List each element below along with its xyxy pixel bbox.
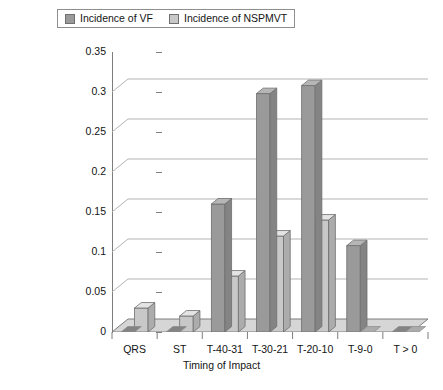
x-axis-title: Timing of Impact <box>0 359 443 371</box>
bar-front <box>347 246 361 332</box>
bar-front <box>302 86 316 332</box>
bar-front <box>211 204 225 332</box>
x-tick-marks <box>0 331 443 345</box>
legend-swatch-nspmvt <box>169 14 179 24</box>
y-tick-label: 0.35 <box>60 46 106 57</box>
y-tick-label: 0.3 <box>60 86 106 97</box>
bar-side <box>360 240 367 332</box>
y-tick-label: 0.2 <box>60 166 106 177</box>
y-tick-label: 0.25 <box>60 126 106 137</box>
bar-side <box>225 199 232 332</box>
bar-side <box>329 215 336 332</box>
legend-entry-incidence-of-nspmvt: Incidence of NSPMVT <box>169 13 287 24</box>
plot-area <box>112 52 428 332</box>
y-tick-label: 0.1 <box>60 246 106 257</box>
x-axis-ticks: QRSSTT-40-31T-30-21T-20-10T-9-0T > 0 <box>0 343 443 359</box>
bar-front <box>257 94 271 332</box>
bar-side <box>315 80 322 332</box>
bar-side <box>238 271 245 332</box>
bar-side <box>284 231 291 332</box>
y-tick-label: 0.15 <box>60 206 106 217</box>
bars-layer <box>112 52 428 332</box>
bar-chart-figure: Incidence of VF Incidence of NSPMVT 00.0… <box>0 0 443 390</box>
legend-label-nspmvt: Incidence of NSPMVT <box>184 13 287 24</box>
y-tick-label: 0.05 <box>60 286 106 297</box>
bar-side <box>270 88 277 332</box>
